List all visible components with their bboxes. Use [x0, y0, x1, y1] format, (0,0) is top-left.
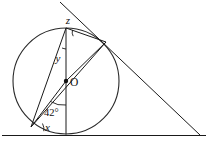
geometry-diagram-canvas: z y O 42° x [0, 0, 209, 146]
label-angle-y: y [55, 52, 61, 64]
label-angle-x: x [44, 121, 50, 133]
label-center-o: O [70, 76, 78, 88]
angle-arc-x [43, 124, 44, 132]
label-angle-42: 42° [44, 107, 59, 118]
line-left-to-right-tangent [31, 42, 106, 127]
center-point-dot [64, 79, 68, 83]
chord-top-to-right [66, 28, 106, 42]
slant-tangent-line [60, 2, 200, 135]
label-angle-z: z [65, 14, 71, 26]
angle-arc-y [62, 48, 66, 49]
geometry-figure: z y O 42° x [0, 0, 209, 146]
